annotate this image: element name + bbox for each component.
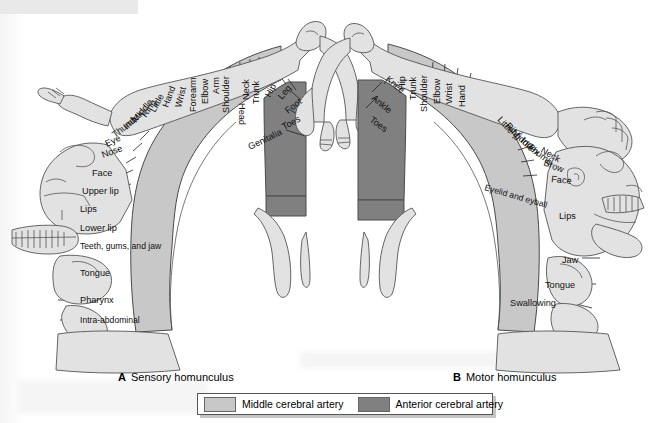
caption-motor-text: Motor homunculus [466,371,557,383]
legend-item-middle-cerebral-artery: Middle cerebral artery [204,397,344,412]
caption-motor-letter: B [453,371,461,383]
legend-swatch-middle-cerebral-artery [204,397,236,412]
motor-label-shoulder: Shoulder [419,75,429,112]
sensory-label-lower-lip: Lower lip [80,223,117,233]
sensory-label-intra-abdominal: Intra-abdominal [80,315,140,325]
motor-label-tongue: Tongue [545,280,575,290]
sensory-label-forearm: Forearm [188,77,198,112]
sensory-label-upper-lip: Upper lip [82,186,119,196]
caption-motor: BMotor homunculus [453,371,556,383]
caption-sensory-letter: A [118,371,126,383]
central-limb-shapes [254,208,416,297]
legend-swatch-anterior-cerebral-artery [358,397,390,412]
motor-label-lips: Lips [559,211,576,221]
legend-label-anterior-cerebral-artery: Anterior cerebral artery [396,398,503,410]
homunculus-illustration: .mca{fill:#c8c8c8;stroke:#4a4a4a;stroke-… [0,0,662,423]
motor-label-trunk: Trunk [408,76,418,100]
motor-label-swallowing: Swallowing [510,298,556,308]
caption-sensory-text: Sensory homunculus [131,371,234,383]
sensory-label-elbow: Elbow [200,79,210,104]
sensory-label-pharynx: Pharynx [80,295,114,305]
legend: Middle cerebral artery Anterior cerebral… [197,393,493,415]
motor-trunk-block [496,331,620,373]
legend-item-anterior-cerebral-artery: Anterior cerebral artery [358,397,503,412]
sensory-anterior-cerebral-lower [266,196,306,216]
sensory-label-trunk: Trunk [251,80,261,104]
sensory-label-teeth-gums-and-jaw: Teeth, gums, and jaw [80,241,162,251]
motor-label-jaw: Jaw [562,255,579,265]
motor-label-face: Face [551,174,572,186]
legend-label-middle-cerebral-artery: Middle cerebral artery [242,398,344,410]
motor-anterior-cerebral-lower [358,200,404,220]
sensory-label-face: Face [92,168,112,178]
diagram-canvas: .mca{fill:#c8c8c8;stroke:#4a4a4a;stroke-… [0,0,662,423]
motor-label-elbow: Elbow [432,79,442,104]
sensory-label-shoulder: Shoulder [221,76,231,113]
sensory-label-neck: Neck [241,79,251,100]
caption-sensory: ASensory homunculus [118,371,234,383]
motor-label-hand: Hand [457,85,467,107]
sensory-label-tongue: Tongue [80,268,110,278]
sensory-label-lips: Lips [80,204,97,214]
sensory-label-arm: Arm [211,77,221,94]
motor-label-wrist: Wrist [444,83,454,104]
sensory-label-head: Head [237,103,247,125]
sensory-trunk-block [56,331,180,373]
